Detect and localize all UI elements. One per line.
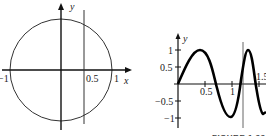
y-tick-label-neg-half: −0.5 [155,96,173,107]
tick-label-half: 0.5 [86,73,99,84]
y-tick-label-one: 1 [168,45,173,56]
figure-caption: FIGURE 1.38 [212,133,266,136]
x-tick-label-half: 0.5 [200,86,213,97]
y-tick-label-neg-one: −1 [164,113,175,124]
oscillation-figure: y 1 0.5 −0.5 −1 0.5 1 1.5 FIGURE 1.38 [155,33,266,136]
y-axis-label: y [69,1,75,12]
x-axis-arrow-icon [125,67,132,73]
y-axis-right-arrow-icon [176,33,181,39]
tick-label-one: 1 [114,73,119,84]
unit-circle-figure: y x −1 0.5 1 [0,1,132,130]
y-axis-label-right: y [182,33,188,44]
tick-label-neg-one: −1 [0,73,9,84]
figure-canvas: y x −1 0.5 1 y 1 0.5 −0.5 −1 0.5 1 1.5 F… [0,0,266,136]
x-axis-label: x [123,75,129,86]
y-axis-arrow-icon [58,3,64,10]
x-tick-label-one: 1 [230,86,235,97]
x-tick-label-one-half: 1.5 [256,71,266,82]
y-tick-label-half: 0.5 [160,62,173,73]
